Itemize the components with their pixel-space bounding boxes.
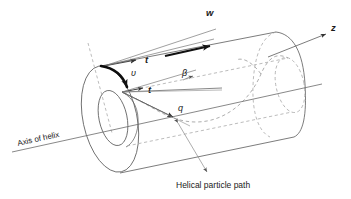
axis-of-helix-label: Axis of helix — [16, 130, 60, 148]
annulus-front-face — [72, 61, 147, 178]
circumferential-velocity-arc — [101, 66, 127, 87]
helical-flow-diagram: z w t υ t β — [0, 0, 351, 199]
tangent-upper-label: t — [145, 54, 149, 65]
axial-velocity-label-w: w — [206, 7, 214, 18]
resultant-velocity-label-q: q — [178, 103, 183, 113]
axis-of-helix-line — [12, 84, 322, 152]
helical-particle-path-label: Helical particle path — [176, 180, 250, 190]
z-axis-label: z — [330, 22, 336, 33]
tangent-vector-lower — [122, 70, 222, 92]
axial-velocity-vector-w — [165, 46, 210, 56]
tangential-velocity-label-upsilon: υ — [131, 68, 136, 78]
tangent-lower-label: t — [148, 84, 152, 95]
beta-angle-label: β — [181, 68, 187, 78]
figure-canvas: z w t υ t β — [0, 0, 351, 199]
z-axis-arrow — [268, 34, 326, 57]
bore-inner-wall — [122, 92, 138, 147]
cylinder-outer-surface — [101, 32, 306, 173]
construction-line-vertical — [88, 43, 112, 133]
